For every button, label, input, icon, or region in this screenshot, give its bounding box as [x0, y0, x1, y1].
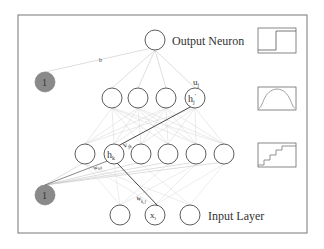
hj-label: hj' [188, 93, 196, 105]
weight-bias-output-label: b [99, 57, 102, 63]
edge-highlight-bias-hk [45, 160, 110, 185]
bias-bottom-label: 1 [42, 190, 47, 201]
step-function-icon [258, 28, 296, 53]
output-neuron-label: Output Neuron [172, 34, 244, 48]
hidden-layer-1 [75, 144, 234, 164]
hidden1-node [158, 144, 178, 164]
weight-bias-hidden-label: wk0 [92, 163, 102, 173]
weight-hidden-label: vjk [122, 139, 133, 151]
input-layer [110, 205, 200, 225]
weight-output-label: uj [193, 77, 200, 88]
hidden1-node [186, 144, 206, 164]
neural-network-diagram: Output Neuron 1 b hj' uj hk vjk wk0 1 xl… [0, 0, 324, 249]
edges-input-hidden1 [85, 164, 224, 205]
input-node [180, 205, 200, 225]
hidden2-node [102, 88, 122, 108]
hidden2-node [128, 88, 148, 108]
hidden2-node [156, 88, 176, 108]
edges-output-hidden2 [112, 50, 195, 88]
hidden1-node [214, 144, 234, 164]
input-node [110, 205, 130, 225]
hidden1-node [75, 144, 95, 164]
input-layer-label: Input Layer [208, 209, 264, 223]
bias-top-label: 1 [42, 77, 47, 88]
weight-input-label: wk,l [135, 194, 147, 206]
hidden1-node [131, 144, 151, 164]
output-neuron [145, 30, 165, 50]
input-node-xl [145, 205, 165, 225]
sigmoid-bump-icon [258, 87, 296, 110]
staircase-function-icon [258, 143, 296, 167]
